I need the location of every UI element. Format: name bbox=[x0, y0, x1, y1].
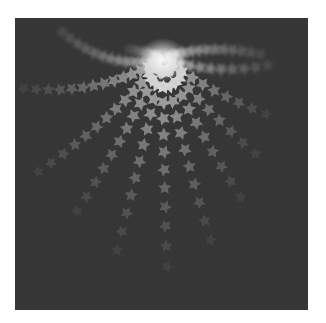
star-particle bbox=[220, 90, 233, 103]
star-particle bbox=[160, 240, 172, 252]
star-particle bbox=[120, 121, 134, 134]
star-particle bbox=[225, 125, 238, 138]
star-particle bbox=[249, 61, 262, 74]
star-particle bbox=[225, 62, 238, 75]
star-particle bbox=[193, 60, 206, 74]
star-particle bbox=[224, 175, 236, 187]
star-particle bbox=[175, 126, 188, 140]
star-particle bbox=[205, 234, 217, 246]
star-particle bbox=[71, 205, 83, 217]
star-particle bbox=[125, 67, 139, 81]
star-particle bbox=[126, 109, 140, 123]
star-particle bbox=[157, 128, 171, 142]
star-particle bbox=[246, 102, 258, 114]
star-particle bbox=[140, 122, 154, 136]
star-particle bbox=[169, 110, 183, 124]
star-particle bbox=[55, 25, 68, 39]
star-particle bbox=[65, 83, 78, 96]
star-particle bbox=[207, 84, 220, 97]
star-particle bbox=[249, 147, 261, 159]
star-particle bbox=[182, 102, 196, 116]
star-particle bbox=[79, 130, 92, 143]
star-particle bbox=[183, 160, 196, 173]
star-particle bbox=[158, 181, 171, 194]
star-particle bbox=[116, 225, 128, 237]
star-particle bbox=[261, 58, 275, 71]
star-particle bbox=[190, 117, 204, 130]
star-particle bbox=[235, 191, 247, 203]
star-particle bbox=[125, 189, 138, 202]
star-particle bbox=[159, 220, 172, 233]
star-particle bbox=[261, 108, 273, 120]
star-particle bbox=[42, 83, 55, 95]
star-particle bbox=[202, 103, 215, 116]
star-particle bbox=[77, 81, 90, 94]
star-particle bbox=[90, 176, 102, 189]
star-particle bbox=[100, 111, 114, 124]
star-particle bbox=[133, 155, 146, 168]
star-particle bbox=[121, 207, 134, 219]
star-particle bbox=[80, 191, 92, 203]
star-particle bbox=[215, 160, 228, 173]
star-particle bbox=[254, 48, 267, 61]
star-particle bbox=[45, 158, 57, 170]
star-particle bbox=[192, 92, 206, 106]
artwork-canvas: Grayscale generative art: five-pointed s… bbox=[15, 18, 308, 310]
star-particle bbox=[97, 162, 110, 175]
star-particle bbox=[204, 62, 217, 76]
star-particle bbox=[32, 166, 44, 178]
star-particle bbox=[114, 135, 127, 148]
star-particle bbox=[53, 83, 65, 96]
star-particle bbox=[129, 171, 142, 184]
star-particle bbox=[87, 79, 100, 92]
star-burst-artwork bbox=[15, 18, 308, 310]
star-particle bbox=[157, 163, 170, 176]
star-particle bbox=[109, 102, 122, 116]
star-particle bbox=[134, 97, 148, 111]
star-particle bbox=[197, 130, 210, 143]
star-particle bbox=[178, 144, 192, 157]
star-particle bbox=[137, 138, 150, 152]
star-particle bbox=[198, 215, 210, 227]
star-particle bbox=[238, 62, 251, 76]
star-particle bbox=[206, 145, 219, 158]
star-particle bbox=[17, 83, 29, 95]
star-particle bbox=[111, 244, 123, 256]
star-particle bbox=[162, 261, 174, 273]
star-particle bbox=[236, 137, 248, 149]
star-particle bbox=[189, 178, 202, 191]
star-particle bbox=[213, 114, 226, 127]
star-particle bbox=[159, 201, 172, 214]
center-glow bbox=[137, 38, 189, 82]
star-particle bbox=[68, 138, 81, 151]
star-particle bbox=[58, 147, 70, 160]
star-particle bbox=[31, 83, 43, 95]
star-particle bbox=[105, 149, 118, 162]
star-particle bbox=[214, 63, 228, 76]
star-particle bbox=[193, 197, 206, 209]
star-particle bbox=[91, 120, 104, 133]
star-particle bbox=[156, 111, 170, 125]
star-particle bbox=[143, 108, 157, 122]
star-particle bbox=[158, 146, 171, 160]
star-particle bbox=[232, 97, 245, 109]
